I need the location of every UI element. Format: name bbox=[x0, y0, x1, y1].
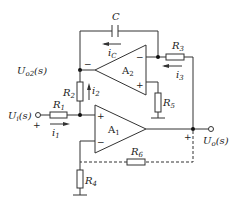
node-ui-label: Ui(s) bbox=[8, 110, 32, 123]
resistor-r2-label: R2 bbox=[62, 87, 76, 100]
resistor-r5: R5 bbox=[151, 93, 176, 118]
current-ic-label: iC bbox=[108, 47, 117, 60]
output-terminal bbox=[209, 127, 214, 132]
a2-minus-sign: − bbox=[136, 52, 144, 62]
resistor-r4-label: R4 bbox=[84, 175, 97, 188]
resistor-r1-label: R1 bbox=[52, 99, 65, 112]
a1-minus-sign: − bbox=[97, 137, 105, 147]
resistor-r6-label: R6 bbox=[130, 146, 144, 159]
arrow-left-icon bbox=[162, 64, 169, 68]
resistor-r3-label: R3 bbox=[171, 40, 185, 53]
current-i1-label: i1 bbox=[52, 127, 60, 140]
node-a1-plus bbox=[78, 113, 82, 117]
current-i2-label: i2 bbox=[92, 85, 100, 98]
resistor-r3: R3 i3 bbox=[162, 40, 193, 129]
uo-plus-sign: + bbox=[184, 132, 192, 142]
input-terminal bbox=[36, 113, 41, 118]
resistor-r4: R4 bbox=[73, 170, 97, 195]
uo2-minus-sign: − bbox=[84, 59, 92, 69]
arrow-up-icon bbox=[87, 83, 91, 90]
resistor-r2: R2 i2 bbox=[62, 70, 100, 115]
ui-plus-sign: + bbox=[33, 120, 41, 130]
node-uo-label: Uo(s) bbox=[203, 135, 229, 148]
node-uo2-label: Uo2(s) bbox=[17, 65, 47, 78]
arrow-left-icon bbox=[102, 42, 109, 46]
a1-plus-sign: + bbox=[97, 111, 105, 121]
current-i3-label: i3 bbox=[176, 69, 184, 82]
opamp-a2-label: A2 bbox=[121, 65, 134, 78]
opamp-a1-label: A1 bbox=[107, 124, 120, 137]
resistor-r5-label: R5 bbox=[162, 97, 176, 110]
circuit-diagram: C iC A2 − + − Uo2(s) R3 i3 R5 bbox=[0, 0, 236, 211]
capacitor-label: C bbox=[112, 11, 120, 22]
a2-plus-sign: + bbox=[136, 80, 144, 90]
arrow-right-icon bbox=[63, 122, 70, 126]
node-a2-minus bbox=[156, 55, 160, 59]
node-output bbox=[191, 127, 195, 131]
input-branch: Ui(s) + R1 i1 bbox=[8, 99, 95, 140]
